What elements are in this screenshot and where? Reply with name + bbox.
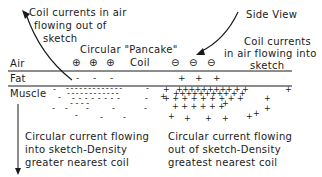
svg-text:-: - xyxy=(146,84,149,93)
svg-text:-: - xyxy=(75,111,78,120)
label-coil: Coil xyxy=(130,57,150,68)
label-into-sketch-density-line3: greater nearest coil xyxy=(25,157,129,168)
svg-text:-: - xyxy=(52,104,55,113)
svg-text:-: - xyxy=(86,104,89,113)
label-out-of-sketch-line1: Coil currents in air xyxy=(29,7,127,18)
svg-text:+: + xyxy=(264,94,271,103)
svg-text:-: - xyxy=(100,113,103,122)
svg-text:+: + xyxy=(222,99,229,108)
svg-text:+: + xyxy=(246,112,253,121)
svg-text:⊕: ⊕ xyxy=(72,57,80,68)
layer-label-muscle: Muscle xyxy=(10,88,46,99)
svg-text:-: - xyxy=(76,73,79,83)
muscle-negative-charges: - - - - - - - - - - - - - - - - - - - - … xyxy=(52,84,149,122)
svg-text:-: - xyxy=(145,94,148,103)
arrow-head-icon xyxy=(196,48,205,55)
label-side-view: Side View xyxy=(246,9,297,20)
svg-text:⊕: ⊕ xyxy=(89,57,97,68)
svg-text:-: - xyxy=(110,73,113,83)
label-into-sketch-line3: sketch xyxy=(250,60,284,71)
svg-text:-: - xyxy=(144,104,147,113)
label-pancake: Circular "Pancake" xyxy=(80,44,178,55)
svg-text:-: - xyxy=(53,85,56,94)
svg-text:+: + xyxy=(222,114,229,123)
svg-text:+: + xyxy=(195,73,203,83)
svg-text:⊖: ⊖ xyxy=(171,57,179,68)
label-into-sketch-density-line1: Circular current flowing xyxy=(25,131,149,142)
layer-label-air: Air xyxy=(10,58,25,69)
svg-text:+: + xyxy=(264,104,271,113)
label-into-sketch-density-line2: into sketch-Density xyxy=(25,144,127,155)
svg-text:+: + xyxy=(253,109,260,118)
svg-text:-: - xyxy=(93,73,96,83)
svg-text:-: - xyxy=(65,104,68,113)
muscle-positive-charges: + +++++++++ + + +++++++++ + + + + + + + … xyxy=(160,85,292,123)
label-out-of-sketch-line2: flowing out of xyxy=(34,20,107,31)
svg-text:+: + xyxy=(205,114,212,123)
svg-text:⊕: ⊕ xyxy=(106,57,114,68)
arrow-into-sketch xyxy=(200,12,238,52)
svg-text:+: + xyxy=(168,112,175,121)
label-out-sketch-density-line3: greatest nearest coil xyxy=(168,157,277,168)
label-into-sketch-line2: in air flowing into xyxy=(224,48,317,59)
arrow-head-icon xyxy=(15,168,21,175)
svg-text:+: + xyxy=(285,85,292,94)
svg-text:-: - xyxy=(58,93,61,102)
svg-text:-: - xyxy=(112,104,115,113)
svg-text:⊖: ⊖ xyxy=(207,57,215,68)
label-into-sketch-line1: Coil currents xyxy=(244,36,311,47)
svg-text:+: + xyxy=(213,73,221,83)
svg-text:-: - xyxy=(123,113,126,122)
svg-text:⊖: ⊖ xyxy=(189,57,197,68)
svg-text:+ + + + + +: + + + + + + xyxy=(172,102,225,111)
svg-text:+: + xyxy=(178,73,186,83)
label-out-sketch-density-line1: Circular current flowing xyxy=(168,131,292,142)
label-out-of-sketch-line3: sketch xyxy=(43,33,77,44)
fat-charges: --- +++ xyxy=(76,73,221,83)
layer-label-fat: Fat xyxy=(10,73,26,84)
svg-text:+: + xyxy=(184,114,191,123)
label-out-sketch-density-line2: out of sketch-Density xyxy=(168,144,281,155)
